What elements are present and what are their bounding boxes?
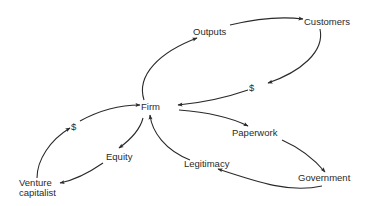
firm-relationships-diagram: Firm Outputs Customers $ Paperwork Gover… (0, 0, 370, 206)
edge-venture-capitalist-to-dollar (37, 128, 70, 178)
node-legitimacy: Legitimacy (184, 158, 230, 169)
node-dollar-vc: $ (71, 121, 77, 132)
edge-dollar-to-firm (178, 90, 248, 105)
node-customers: Customers (304, 16, 350, 27)
edge-customers-to-dollar (268, 29, 321, 83)
node-paperwork: Paperwork (232, 127, 278, 138)
edge-outputs-to-customers (230, 18, 303, 25)
node-venture-capitalist-line2: capitalist (19, 187, 56, 198)
node-firm: Firm (141, 101, 160, 112)
edge-equity-to-venture-capitalist (60, 163, 103, 183)
edge-legitimacy-to-firm (150, 115, 190, 160)
edge-dollar-vc-to-firm (80, 105, 140, 121)
edge-paperwork-to-government (282, 140, 325, 172)
edge-firm-to-paperwork (179, 110, 248, 126)
node-dollar-customers: $ (249, 82, 255, 93)
edge-firm-to-equity (119, 118, 143, 148)
node-equity: Equity (106, 151, 133, 162)
node-outputs: Outputs (193, 26, 227, 37)
node-government: Government (298, 172, 351, 183)
edge-firm-to-outputs (142, 38, 197, 100)
